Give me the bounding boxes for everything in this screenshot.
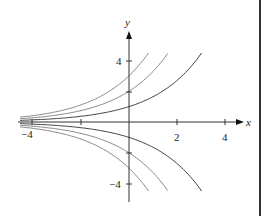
x-tick-label-4: 4 <box>222 131 228 143</box>
curve-c-2 <box>20 125 168 190</box>
y-axis-arrow-icon <box>126 31 132 39</box>
x-tick-label-2: 2 <box>174 131 180 143</box>
x-axis-label: x <box>245 116 251 128</box>
frame-right-border <box>259 0 261 216</box>
curve-c1 <box>20 53 202 120</box>
x-tick-label-neg4: −4 <box>21 128 33 140</box>
x-axis-arrow-icon <box>236 119 244 125</box>
y-tick-label-4: 4 <box>116 55 122 67</box>
curve-c2 <box>20 54 168 119</box>
y-tick-label-neg4: −4 <box>109 178 121 190</box>
chart-plot: x y −4 2 4 4 −4 <box>0 0 264 216</box>
y-axis-label: y <box>124 16 130 28</box>
